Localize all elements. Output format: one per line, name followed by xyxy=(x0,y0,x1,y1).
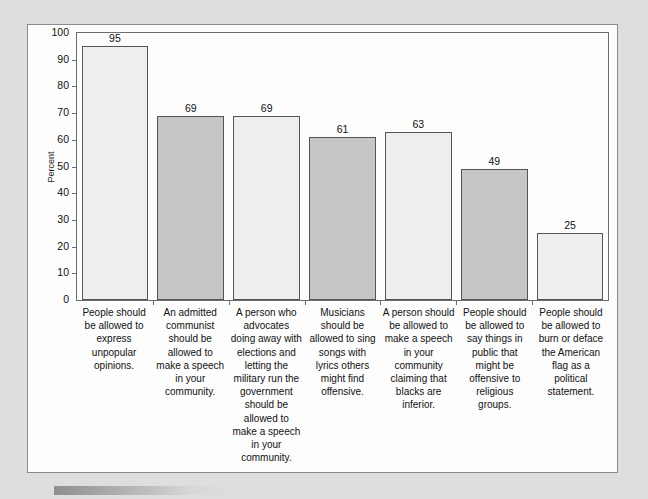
x-axis-tick-mark xyxy=(380,300,381,305)
y-axis-tick-label: 70 xyxy=(57,106,69,118)
x-axis-category-label: People should be allowed to say things i… xyxy=(457,306,533,412)
y-axis-title: Percent xyxy=(46,151,56,182)
x-axis-category-label: An admitted communist should be allowed … xyxy=(152,306,228,398)
bar-value-label: 69 xyxy=(261,102,273,114)
x-axis-tick-mark xyxy=(229,300,230,305)
y-axis-tick-label: 40 xyxy=(57,186,69,198)
bar-slot: 69 xyxy=(229,33,305,300)
bar-slot: 49 xyxy=(456,33,532,300)
bar-slot: 63 xyxy=(380,33,456,300)
bar-value-label: 63 xyxy=(413,118,425,130)
y-axis-tick-label: 0 xyxy=(63,293,69,305)
bar-series: 95696961634925 xyxy=(77,33,608,300)
y-axis-tick-label: 50 xyxy=(57,160,69,172)
y-axis-tick-label: 100 xyxy=(51,26,69,38)
bar-value-label: 69 xyxy=(185,102,197,114)
x-axis-category-label: A person should be allowed to make a spe… xyxy=(381,306,457,412)
x-axis-category-label: A person who advocates doing away with e… xyxy=(228,306,304,464)
bar-slot: 95 xyxy=(77,33,153,300)
x-axis-category-label: People should be allowed to burn or defa… xyxy=(533,306,609,398)
y-axis-tick-label: 10 xyxy=(57,266,69,278)
x-axis-tick-mark xyxy=(153,300,154,305)
chart-figure-panel: Percent 1009080706050403020100 956969616… xyxy=(27,24,618,473)
bar-value-label: 25 xyxy=(564,219,576,231)
bar: 95 xyxy=(82,46,149,300)
y-axis-tick-label: 30 xyxy=(57,213,69,225)
bar-slot: 25 xyxy=(532,33,608,300)
bar-value-label: 61 xyxy=(337,123,349,135)
x-axis-tick-mark xyxy=(305,300,306,305)
bar: 69 xyxy=(157,116,224,300)
y-axis-tick-label: 90 xyxy=(57,53,69,65)
x-axis-tick-mark xyxy=(532,300,533,305)
bar-slot: 61 xyxy=(305,33,381,300)
bar: 61 xyxy=(309,137,376,300)
x-axis-category-labels: People should be allowed to express unpo… xyxy=(76,306,609,464)
plot-area: Percent 1009080706050403020100 956969616… xyxy=(76,32,609,301)
x-axis-tick-mark xyxy=(456,300,457,305)
bar-value-label: 95 xyxy=(109,32,121,44)
x-axis-category-label: People should be allowed to express unpo… xyxy=(76,306,152,372)
bar-slot: 69 xyxy=(153,33,229,300)
bar: 25 xyxy=(537,233,604,300)
y-axis-tick-label: 80 xyxy=(57,79,69,91)
bar-value-label: 49 xyxy=(488,155,500,167)
bar: 63 xyxy=(385,132,452,300)
bar: 49 xyxy=(461,169,528,300)
bar: 69 xyxy=(233,116,300,300)
y-axis-tick-label: 60 xyxy=(57,133,69,145)
y-axis-tick-label: 20 xyxy=(57,240,69,252)
x-axis-category-label: Musicians should be allowed to sing song… xyxy=(304,306,380,398)
footer-gradient-strip xyxy=(54,486,224,495)
